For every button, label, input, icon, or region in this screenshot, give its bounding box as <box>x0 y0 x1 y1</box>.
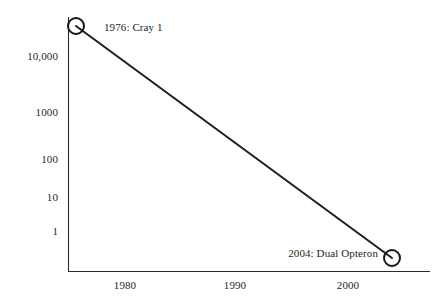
y-axis-tick-label-1000: 1000 <box>6 106 58 118</box>
x-axis-tick-label-2000: 2000 <box>318 279 378 291</box>
x-axis-tick-label-1990: 1990 <box>205 279 265 291</box>
data-line-series-1 <box>76 26 392 258</box>
chart-figure: c o m p u t i n g 10,000 1000 100 10 1 1… <box>0 0 441 308</box>
x-axis-tick-label-1980: 1980 <box>95 279 155 291</box>
annotation-cray-1: 1976: Cray 1 <box>104 21 163 33</box>
y-axis-tick-label-10: 10 <box>6 191 58 203</box>
plot-area <box>0 0 441 308</box>
y-axis-tick-label-100: 100 <box>6 153 58 165</box>
annotation-dual-opteron: 2004: Dual Opteron <box>258 247 378 259</box>
y-axis-tick-label-1: 1 <box>6 225 58 237</box>
y-axis-tick-label-10000: 10,000 <box>6 50 58 62</box>
